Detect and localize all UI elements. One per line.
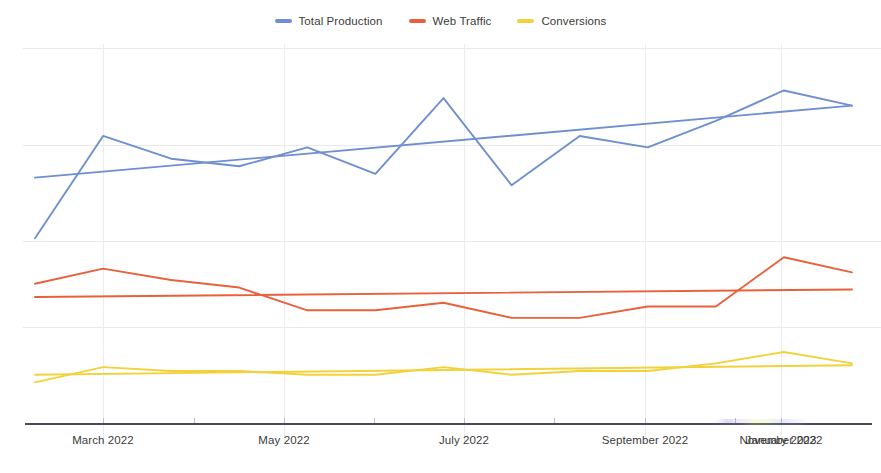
line-chart-svg: March 2022May 2022July 2022September 202… bbox=[0, 0, 881, 473]
x-tick-label: September 2022 bbox=[602, 434, 688, 446]
data-series bbox=[35, 90, 852, 382]
x-axis-tick-labels: March 2022May 2022July 2022September 202… bbox=[72, 434, 822, 446]
vertical-gridlines bbox=[103, 44, 781, 442]
series-line bbox=[35, 90, 852, 238]
horizontal-gridlines bbox=[23, 48, 881, 327]
series-line bbox=[35, 257, 852, 318]
trend-line bbox=[35, 106, 852, 178]
x-tick-label: March 2022 bbox=[72, 434, 134, 446]
x-tick-label: July 2022 bbox=[439, 434, 489, 446]
chart-container: Total Production Web Traffic Conversions… bbox=[0, 0, 881, 473]
x-tick-label: January 2023 bbox=[746, 434, 817, 446]
axis-ticks bbox=[103, 418, 781, 424]
plot-area: March 2022May 2022July 2022September 202… bbox=[0, 0, 881, 473]
trend-lines bbox=[35, 106, 852, 375]
x-tick-label: May 2022 bbox=[258, 434, 309, 446]
